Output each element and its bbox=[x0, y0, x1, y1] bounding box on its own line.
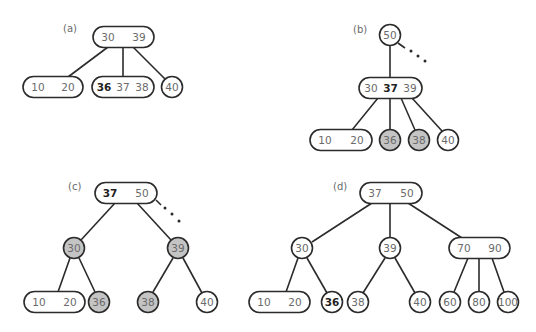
tree-edge bbox=[81, 203, 115, 240]
tree-node-pill: 1020 bbox=[23, 77, 83, 98]
node-key: 30 bbox=[295, 242, 308, 254]
tree-node-circle: 39 bbox=[168, 238, 189, 259]
continuation-dot bbox=[164, 207, 167, 210]
tree-node-pill: 1020 bbox=[310, 130, 372, 151]
node-key: 50 bbox=[400, 187, 413, 199]
tree-edge bbox=[79, 258, 95, 292]
tree-node-pill: 303739 bbox=[359, 78, 422, 99]
panel-label: (c) bbox=[68, 181, 81, 192]
panel-a: (a)3039102036373840 bbox=[23, 23, 183, 98]
tree-node-circle: 38 bbox=[348, 292, 369, 313]
tree-edge bbox=[307, 258, 327, 293]
node-key: 20 bbox=[61, 81, 74, 93]
tree-edge bbox=[58, 258, 70, 292]
node-key: 39 bbox=[403, 82, 416, 94]
tree-edge bbox=[412, 98, 442, 131]
panel-label: (a) bbox=[63, 23, 77, 34]
node-key: 50 bbox=[135, 187, 148, 199]
tree-edge bbox=[401, 98, 415, 130]
tree-node-circle: 100 bbox=[498, 292, 519, 313]
node-key: 40 bbox=[200, 296, 213, 308]
tree-node-circle: 36 bbox=[89, 292, 110, 313]
node-key: 39 bbox=[171, 242, 184, 254]
tree-node-pill: 3750 bbox=[360, 183, 422, 204]
node-key: 90 bbox=[488, 242, 501, 254]
node-key: 10 bbox=[257, 296, 270, 308]
node-key: 30 bbox=[364, 82, 377, 94]
node-key: 36 bbox=[92, 296, 106, 308]
tree-node-pill: 1020 bbox=[24, 292, 85, 313]
tree-node-circle: 36 bbox=[380, 130, 401, 151]
tree-node-circle: 30 bbox=[292, 238, 313, 259]
tree-node-pill: 3750 bbox=[95, 183, 157, 204]
tree-node-circle: 40 bbox=[197, 292, 218, 313]
panel-label: (b) bbox=[353, 24, 367, 35]
tree-node-circle: 38 bbox=[409, 130, 430, 151]
node-key: 36 bbox=[383, 134, 397, 146]
continuation-dot bbox=[410, 50, 413, 53]
node-key: 36 bbox=[325, 296, 340, 308]
tree-node-circle: 30 bbox=[64, 238, 85, 259]
node-key: 20 bbox=[63, 296, 76, 308]
continuation-dot bbox=[171, 213, 174, 216]
node-key: 10 bbox=[318, 134, 331, 146]
tree-node-pill: 1020 bbox=[249, 292, 310, 313]
panel-b: (b)503037391020363840 bbox=[310, 24, 459, 151]
tree-diagram-figure: (a)3039102036373840(b)503037391020363840… bbox=[0, 0, 536, 332]
node-key: 20 bbox=[350, 134, 363, 146]
tree-node-pill: 3039 bbox=[93, 27, 154, 48]
tree-edge bbox=[312, 203, 372, 242]
node-key: 30 bbox=[67, 242, 80, 254]
node-key: 10 bbox=[31, 81, 44, 93]
panel-d: (d)37503039709010203638406080100 bbox=[249, 181, 519, 313]
node-key: 60 bbox=[443, 296, 456, 308]
tree-edge bbox=[286, 258, 298, 292]
tree-node-circle: 60 bbox=[440, 292, 461, 313]
node-key: 37 bbox=[116, 81, 129, 93]
node-key: 100 bbox=[498, 296, 518, 308]
node-key: 30 bbox=[101, 31, 114, 43]
tree-node-circle: 80 bbox=[469, 292, 490, 313]
node-key: 40 bbox=[165, 81, 178, 93]
node-key: 50 bbox=[383, 29, 396, 41]
tree-node-circle: 36 bbox=[322, 292, 343, 313]
node-key: 38 bbox=[141, 296, 154, 308]
panel-label: (d) bbox=[333, 181, 347, 192]
node-key: 39 bbox=[383, 242, 396, 254]
continuation-dot bbox=[424, 60, 427, 63]
continuation-edge bbox=[398, 43, 405, 48]
node-key: 38 bbox=[351, 296, 364, 308]
node-key: 40 bbox=[441, 134, 454, 146]
tree-node-circle: 40 bbox=[162, 77, 183, 98]
tree-edge bbox=[363, 258, 385, 293]
tree-node-circle: 40 bbox=[410, 292, 431, 313]
tree-edge bbox=[183, 258, 202, 293]
node-key: 80 bbox=[472, 296, 485, 308]
tree-edge bbox=[454, 258, 468, 292]
node-key: 38 bbox=[412, 134, 425, 146]
node-key: 38 bbox=[135, 81, 148, 93]
continuation-dot bbox=[178, 220, 181, 223]
node-key: 37 bbox=[103, 187, 118, 199]
tree-node-pill: 363738 bbox=[92, 77, 154, 98]
tree-node-circle: 50 bbox=[380, 25, 401, 46]
node-key: 39 bbox=[132, 31, 145, 43]
tree-node-pill: 7090 bbox=[449, 238, 510, 259]
node-key: 70 bbox=[457, 242, 470, 254]
node-key: 20 bbox=[288, 296, 301, 308]
tree-node-circle: 38 bbox=[138, 292, 159, 313]
tree-node-circle: 39 bbox=[380, 238, 401, 259]
tree-node-circle: 40 bbox=[438, 130, 459, 151]
tree-edge bbox=[133, 47, 165, 79]
panel-c: (c)375030391020363840 bbox=[24, 181, 218, 313]
continuation-edge bbox=[156, 200, 161, 205]
node-key: 37 bbox=[383, 82, 398, 94]
node-key: 10 bbox=[32, 296, 45, 308]
tree-edge bbox=[153, 258, 173, 292]
continuation-dot bbox=[417, 55, 420, 58]
tree-edge bbox=[395, 258, 415, 293]
tree-edge bbox=[492, 258, 504, 292]
node-key: 37 bbox=[368, 187, 381, 199]
node-key: 40 bbox=[413, 296, 426, 308]
tree-edge bbox=[68, 47, 108, 77]
